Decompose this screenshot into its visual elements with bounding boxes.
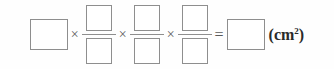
multiplication-sign-2: × bbox=[116, 28, 130, 42]
fraction-1-denominator-blank[interactable] bbox=[86, 38, 112, 64]
fraction-1-bar bbox=[82, 34, 116, 35]
leading-blank[interactable] bbox=[30, 19, 68, 50]
equals-sign: = bbox=[212, 27, 227, 43]
fraction-2-numerator-blank[interactable] bbox=[134, 5, 160, 31]
math-exercise-screenshot: × × × = (cm2) bbox=[0, 0, 334, 69]
unit-label-text: (cm bbox=[269, 26, 295, 43]
fraction-1 bbox=[82, 5, 116, 64]
fraction-3 bbox=[178, 5, 212, 64]
unit-label-close: ) bbox=[299, 26, 304, 43]
unit-label: (cm2) bbox=[265, 27, 305, 43]
result-blank[interactable] bbox=[227, 19, 265, 50]
fraction-3-bar bbox=[178, 34, 212, 35]
fraction-1-numerator-blank[interactable] bbox=[86, 5, 112, 31]
fraction-3-numerator-blank[interactable] bbox=[182, 5, 208, 31]
fraction-2 bbox=[130, 5, 164, 64]
fraction-2-denominator-blank[interactable] bbox=[134, 38, 160, 64]
fraction-2-bar bbox=[130, 34, 164, 35]
equation-row: × × × = (cm2) bbox=[0, 0, 334, 69]
multiplication-sign-3: × bbox=[164, 28, 178, 42]
fraction-3-denominator-blank[interactable] bbox=[182, 38, 208, 64]
multiplication-sign-1: × bbox=[68, 28, 82, 42]
